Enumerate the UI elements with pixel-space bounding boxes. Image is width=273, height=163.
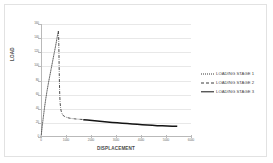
legend-label: LOADING STAGE 1	[216, 71, 254, 76]
y-axis-tick	[38, 52, 41, 53]
x-axis-tick-label: 4000	[138, 139, 144, 142]
x-axis-tick-label: 2000	[88, 139, 94, 142]
x-axis-tick-label: 1000	[63, 139, 69, 142]
legend-swatch-solid-icon	[201, 90, 214, 94]
x-axis-title: DISPLACEMENT	[41, 146, 191, 151]
x-axis-tick-label: 6000	[188, 139, 194, 142]
x-axis-tick-label: 5000	[163, 139, 169, 142]
series-lines	[41, 24, 191, 137]
legend-item-loading-stage-1[interactable]: LOADING STAGE 1	[201, 69, 265, 78]
chart-figure: LOAD 020406080100120140160 0100020003000…	[4, 4, 267, 157]
line-loading-stage-3	[83, 120, 177, 127]
y-axis-tick	[38, 95, 41, 96]
legend-swatch-dotted-icon	[201, 72, 214, 76]
y-axis-tick	[38, 24, 41, 25]
legend-label: LOADING STAGE 3	[216, 89, 254, 94]
x-axis-tick-label: 0	[40, 139, 42, 142]
y-axis-title: LOAD	[10, 47, 15, 61]
line-loading-stage-2	[58, 31, 83, 119]
y-axis-tick	[38, 66, 41, 67]
legend-swatch-dashdot-icon	[201, 81, 214, 85]
plot-area	[41, 24, 191, 137]
y-axis-tick	[38, 109, 41, 110]
y-axis-tick	[38, 81, 41, 82]
x-axis-tick-label: 3000	[113, 139, 119, 142]
y-axis-tick-labels: 020406080100120140160	[23, 24, 39, 137]
legend-label: LOADING STAGE 2	[216, 80, 254, 85]
legend-item-loading-stage-2[interactable]: LOADING STAGE 2	[201, 78, 265, 87]
chart-legend: LOADING STAGE 1 LOADING STAGE 2 LOADING …	[201, 69, 265, 96]
legend-item-loading-stage-3[interactable]: LOADING STAGE 3	[201, 87, 265, 96]
y-axis-tick	[38, 38, 41, 39]
line-loading-stage-1	[41, 31, 58, 137]
y-axis-tick	[38, 123, 41, 124]
